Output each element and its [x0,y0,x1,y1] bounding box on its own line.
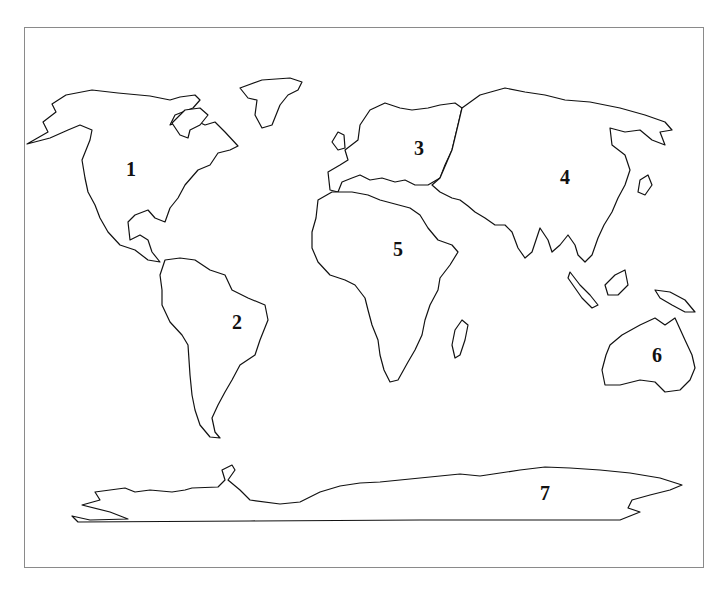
label-3: 3 [414,137,424,159]
label-5: 5 [393,238,403,260]
label-7: 7 [540,482,550,504]
continent-south-america [160,258,268,438]
continent-asia [432,88,672,262]
continent-africa [312,192,458,382]
island-sumatra [568,272,598,308]
label-6: 6 [652,344,662,366]
label-4: 4 [560,166,570,188]
island-new-guinea [655,290,695,312]
label-1: 1 [126,158,136,180]
label-2: 2 [232,311,242,333]
island-greenland [240,78,302,128]
world-map: 1 2 3 4 5 6 7 [0,0,724,595]
island-madagascar [452,320,468,358]
continent-antarctica [72,465,682,522]
continent-australia [602,318,695,392]
island-borneo [605,270,628,295]
island-great-britain [332,132,345,150]
island-japan [638,175,652,195]
